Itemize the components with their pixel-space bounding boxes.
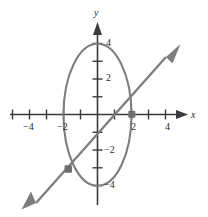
y-tick-label-4: 4 — [106, 38, 111, 48]
x-tick-label-4: 4 — [165, 122, 170, 132]
y-axis-arrow-icon — [93, 22, 102, 35]
intersection-point-right — [128, 111, 135, 118]
y-axis — [93, 22, 103, 205]
x-tick-label-2: 2 — [131, 122, 136, 132]
x-tick-label-minus2: −2 — [57, 122, 68, 132]
x-axis-arrow-icon — [176, 110, 188, 119]
y-axis-label: y — [94, 8, 98, 18]
x-axis-label: x — [191, 110, 195, 120]
y-tick-label-2: 2 — [106, 73, 111, 83]
y-tick-label-minus4: −4 — [104, 180, 115, 190]
line-arrow-upper-icon — [166, 44, 181, 64]
graph-figure: x y −4 −2 2 4 4 2 −2 −4 — [0, 0, 208, 217]
x-tick-label-minus4: −4 — [23, 122, 34, 132]
line-arrow-lower-icon — [22, 192, 37, 210]
x-axis — [10, 110, 188, 120]
intersection-point-left — [65, 165, 73, 173]
y-tick-label-minus2: −2 — [104, 145, 115, 155]
